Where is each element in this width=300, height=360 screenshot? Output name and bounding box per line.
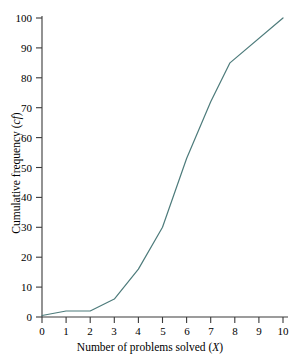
- cumulative-frequency-chart: 0 10 20 30 40 50 60 70 80 90 100 0 1 2 3…: [0, 0, 300, 360]
- x-tick-label-7: 7: [208, 326, 214, 337]
- y-tick-label-10: 10: [2, 282, 32, 293]
- x-tick-label-5: 5: [160, 326, 166, 337]
- x-tick-label-1: 1: [63, 326, 69, 337]
- y-tick-label-0: 0: [2, 312, 32, 323]
- x-tick-label-3: 3: [111, 326, 117, 337]
- x-tick-label-0: 0: [39, 326, 45, 337]
- x-tick-label-2: 2: [87, 326, 93, 337]
- x-tick-label-6: 6: [184, 326, 190, 337]
- x-axis-ticks: [42, 317, 283, 323]
- x-tick-label-10: 10: [278, 326, 289, 337]
- y-axis-title-text: Cumulative frequency: [10, 131, 22, 234]
- cumulative-frequency-line: [42, 18, 283, 316]
- y-tick-label-80: 80: [2, 73, 32, 84]
- x-tick-label-4: 4: [135, 326, 141, 337]
- plot-area: [0, 0, 300, 360]
- x-tick-label-9: 9: [256, 326, 262, 337]
- y-axis-ticks: [36, 18, 42, 317]
- x-axis-title-symbol: X: [212, 341, 219, 353]
- x-axis-title-text: Number of problems solved: [77, 341, 206, 353]
- x-axis-title: Number of problems solved (X): [0, 341, 300, 353]
- y-tick-label-90: 90: [2, 43, 32, 54]
- y-axis-title-symbol: cf: [10, 116, 22, 124]
- x-tick-label-8: 8: [232, 326, 238, 337]
- y-tick-label-100: 100: [2, 13, 32, 24]
- y-axis-title: Cumulative frequency (cf): [10, 83, 22, 263]
